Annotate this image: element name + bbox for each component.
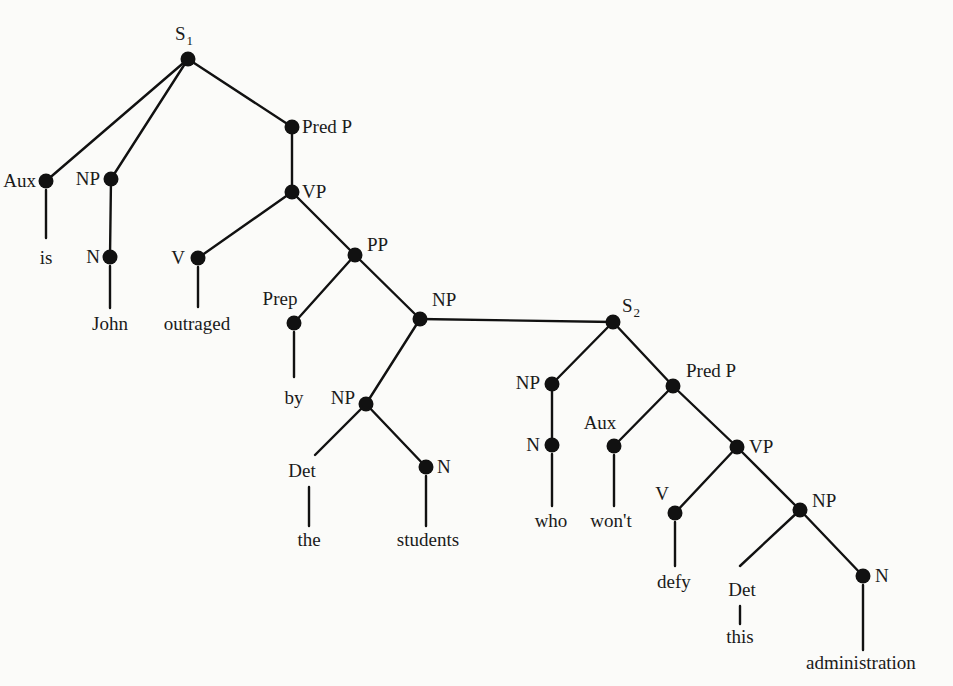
node-label-s1: S1	[175, 23, 193, 48]
node-dot-np2	[413, 312, 428, 327]
edge-s2-predp2	[613, 322, 673, 386]
node-label-det2: Det	[728, 579, 756, 600]
node-dot-n2	[419, 460, 434, 475]
node-label-aux2: Aux	[584, 412, 617, 433]
node-label-v1: V	[171, 247, 185, 268]
word-won-t: won't	[590, 510, 632, 531]
node-dot-predp2	[666, 379, 681, 394]
node-label-det1: Det	[288, 460, 316, 481]
word-students: students	[397, 529, 459, 550]
word-defy: defy	[657, 571, 691, 592]
node-label-np5: NP	[812, 490, 836, 511]
node-label-n2: N	[437, 456, 451, 477]
node-dot-vp2	[730, 440, 745, 455]
node-dot-prep1	[287, 316, 302, 331]
edge-np2-np3	[366, 319, 420, 404]
edge-s1-np1	[111, 59, 188, 179]
edge-pp1-np2	[355, 255, 420, 319]
edge-s1-predp1	[188, 59, 292, 127]
node-dot-aux2	[607, 439, 622, 454]
node-label-s2: S2	[622, 295, 640, 320]
word-by: by	[285, 387, 305, 408]
node-dot-s2	[606, 315, 621, 330]
node-dot-n4	[856, 569, 871, 584]
node-dot-np4	[545, 377, 560, 392]
edge-np2-s2	[420, 319, 613, 322]
node-label-np2: NP	[432, 289, 456, 310]
node-label-n1: N	[86, 246, 100, 267]
node-dot-v1	[191, 251, 206, 266]
node-label-vp2: VP	[749, 436, 773, 457]
node-dot-pp1	[348, 248, 363, 263]
node-dot-np5	[793, 503, 808, 518]
node-label-np4: NP	[516, 372, 540, 393]
node-label-np3: NP	[331, 387, 355, 408]
node-dot-n1	[103, 250, 118, 265]
edge-s1-aux1	[46, 59, 188, 181]
edge-np1-n1	[110, 179, 111, 257]
node-label-n3: N	[526, 434, 540, 455]
word-administration: administration	[806, 652, 916, 673]
edge-predp2-aux2	[614, 386, 673, 446]
node-dot-np3	[359, 397, 374, 412]
edge-vp2-v2	[675, 447, 737, 513]
node-label-prep1: Prep	[263, 288, 298, 309]
node-dot-np1	[104, 172, 119, 187]
edge-predp2-vp2	[673, 386, 737, 447]
node-label-pp1: PP	[367, 234, 388, 255]
edge-pp1-prep1	[294, 255, 355, 323]
word-the: the	[297, 529, 320, 550]
word-john: John	[92, 313, 128, 334]
edge-np5-det2	[740, 510, 800, 566]
node-dot-aux1	[39, 174, 54, 189]
edge-np5-n4	[800, 510, 863, 576]
word-outraged: outraged	[164, 313, 231, 334]
word-is: is	[40, 247, 53, 268]
node-label-aux1: Aux	[3, 170, 36, 191]
syntax-tree-diagram: S1AuxNPPred PNVPVPPPrepNPNPDetNS2NPPred …	[0, 0, 953, 686]
node-labels: S1AuxNPPred PNVPVPPPrepNPNPDetNS2NPPred …	[3, 23, 889, 600]
edge-np3-det1	[315, 404, 366, 455]
edge-vp1-v1	[198, 192, 292, 258]
terminal-words: isJohnoutragedbythestudentswhowon'tdefyt…	[40, 247, 917, 673]
node-label-v2: V	[655, 483, 669, 504]
node-label-np1: NP	[76, 168, 100, 189]
edge-np3-n2	[366, 404, 426, 467]
node-label-vp1: VP	[302, 181, 326, 202]
word-this: this	[726, 626, 753, 647]
node-dot-v2	[668, 506, 683, 521]
node-label-n4: N	[875, 565, 889, 586]
node-dot-predp1	[285, 120, 300, 135]
node-dot-n3	[545, 438, 560, 453]
edge-s2-np4	[552, 322, 613, 384]
node-label-predp2: Pred P	[686, 360, 736, 381]
node-dot-vp1	[285, 185, 300, 200]
node-dot-s1	[181, 52, 196, 67]
word-who: who	[535, 510, 568, 531]
node-label-predp1: Pred P	[302, 116, 352, 137]
